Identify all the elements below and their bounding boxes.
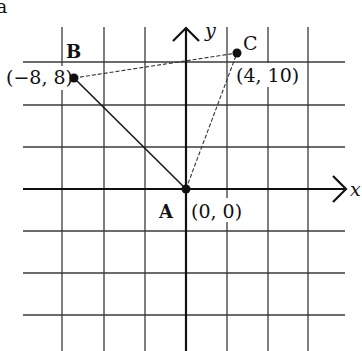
coordinate-diagram: a y x B (−8, 8) C (4, 10) A (0, 0) [0, 0, 362, 351]
point-a-name: A [158, 201, 174, 222]
panel-label: a [0, 0, 7, 17]
point-c-coords: (4, 10) [236, 64, 299, 86]
point-c [233, 49, 242, 58]
point-a [182, 185, 191, 194]
segment-ac [186, 53, 237, 189]
point-b-name: B [66, 41, 81, 62]
point-a-coords: (0, 0) [191, 200, 242, 222]
segment-bc [74, 53, 237, 78]
y-axis-label: y [204, 19, 216, 41]
point-c-name: C [243, 32, 258, 54]
point-b-coords: (−8, 8) [6, 66, 73, 88]
segment-ab [74, 78, 186, 189]
x-axis-label: x [350, 178, 361, 200]
